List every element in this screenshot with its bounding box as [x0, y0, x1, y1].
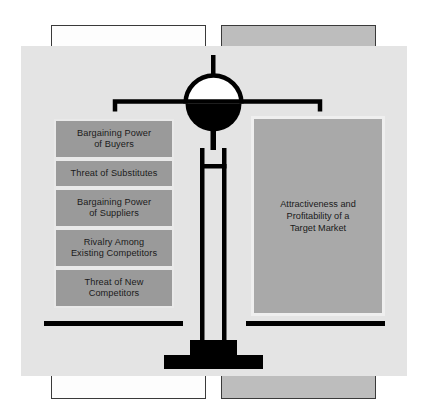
force-box-rivalry-among-existing-competitors[interactable]: Rivalry Among Existing Competitors	[54, 228, 174, 268]
force-box-threat-of-new-competitors[interactable]: Threat of New Competitors	[54, 268, 174, 308]
force-box-bargaining-power-of-buyers[interactable]: Bargaining Power of Buyers	[54, 119, 174, 159]
diagram-canvas: Bargaining Power of Buyers Threat of Sub…	[0, 0, 427, 407]
frame-rect-bottom-left	[51, 375, 206, 399]
force-box-label: Bargaining Power of Buyers	[77, 128, 151, 151]
left-pan-force-stack: Bargaining Power of Buyers Threat of Sub…	[54, 119, 174, 308]
force-box-label: Rivalry Among Existing Competitors	[71, 237, 157, 260]
right-pan-outcome-panel[interactable]: Attractiveness and Profitability of a Ta…	[251, 116, 385, 316]
force-box-label: Threat of New Competitors	[85, 277, 144, 300]
force-box-threat-of-substitutes[interactable]: Threat of Substitutes	[54, 159, 174, 188]
outcome-panel-label: Attractiveness and Profitability of a Ta…	[280, 198, 356, 234]
force-box-label: Bargaining Power of Suppliers	[77, 197, 151, 220]
force-box-label: Threat of Substitutes	[71, 168, 158, 180]
force-box-bargaining-power-of-suppliers[interactable]: Bargaining Power of Suppliers	[54, 188, 174, 228]
frame-rect-bottom-right	[221, 375, 376, 399]
